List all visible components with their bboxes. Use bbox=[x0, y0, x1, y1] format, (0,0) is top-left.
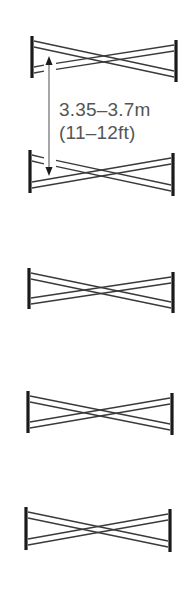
fence-5 bbox=[26, 507, 170, 552]
cross-pole-ascending bbox=[32, 158, 171, 188]
cross-pole-ascending bbox=[30, 398, 170, 428]
cross-pole-ascending bbox=[34, 45, 174, 73]
fence-spacing-diagram bbox=[0, 0, 188, 598]
fence-1 bbox=[32, 36, 176, 82]
cross-pole-descending bbox=[34, 41, 174, 77]
fence-4 bbox=[28, 391, 172, 435]
fence-2 bbox=[30, 150, 173, 196]
measurement-metric-label: 3.35–3.7m bbox=[59, 99, 151, 121]
cross-pole-ascending bbox=[28, 514, 168, 545]
measurement-imperial-label: (11–12ft) bbox=[59, 122, 135, 144]
fence-3 bbox=[29, 268, 173, 313]
cross-pole-descending bbox=[31, 273, 171, 308]
cross-pole-descending bbox=[32, 155, 171, 191]
double-headed-arrow-icon bbox=[46, 56, 53, 176]
cross-pole-ascending bbox=[31, 277, 171, 304]
